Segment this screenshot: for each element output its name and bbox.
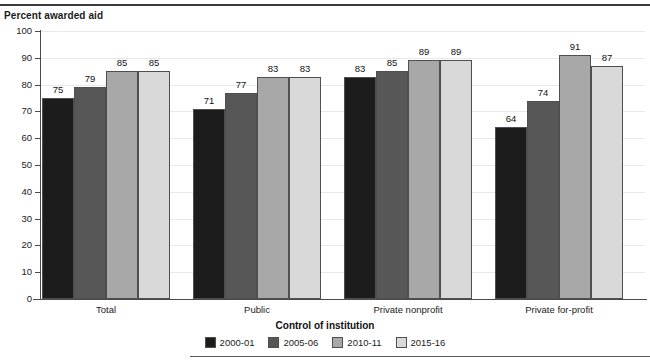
bar (106, 71, 138, 299)
y-tick-mark (35, 299, 40, 300)
y-tick-mark (35, 245, 40, 246)
y-tick-label: 20 (4, 240, 32, 249)
x-axis-line (33, 299, 647, 300)
bar-value-label: 64 (491, 114, 531, 124)
top-divider-rule (0, 4, 650, 6)
y-tick-mark (35, 219, 40, 220)
bar-value-label: 85 (134, 58, 174, 68)
bar-value-label: 75 (38, 85, 78, 95)
bar (527, 101, 559, 299)
bar (344, 77, 376, 299)
legend-item[interactable]: 2010-11 (332, 337, 381, 348)
y-tick-mark (35, 31, 40, 32)
bar (138, 71, 170, 299)
y-tick-mark (35, 111, 40, 112)
bar (193, 109, 225, 299)
bar-value-label: 85 (372, 58, 412, 68)
y-tick-label: 60 (4, 133, 32, 142)
y-tick-label: 50 (4, 160, 32, 169)
y-tick-mark (35, 165, 40, 166)
legend-swatch-icon (396, 337, 407, 348)
bar-value-label: 79 (70, 74, 110, 84)
chart-legend: 2000-012005-062010-112015-16 (0, 337, 650, 348)
legend-item-label: 2015-16 (411, 338, 446, 348)
bar-value-label: 74 (523, 88, 563, 98)
legend-item-label: 2010-11 (347, 338, 381, 348)
y-tick-mark (35, 272, 40, 273)
x-axis-category-label: Private for-profit (465, 304, 650, 315)
bottom-divider-rule (190, 356, 650, 357)
y-tick-label: 80 (4, 80, 32, 89)
y-tick-label: 40 (4, 187, 32, 196)
y-tick-label: 0 (4, 294, 32, 303)
bar-value-label: 77 (221, 80, 261, 90)
legend-swatch-icon (332, 337, 343, 348)
bar (257, 77, 289, 299)
bar (225, 93, 257, 299)
gridline (41, 31, 645, 32)
legend-swatch-icon (268, 337, 279, 348)
bar (559, 55, 591, 299)
y-tick-mark (35, 138, 40, 139)
bar (495, 127, 527, 299)
bar (440, 60, 472, 299)
bar-value-label: 87 (587, 53, 627, 63)
bar-value-label: 89 (436, 47, 476, 57)
bar (408, 60, 440, 299)
bar (591, 66, 623, 299)
y-tick-mark (35, 192, 40, 193)
bar-value-label: 71 (189, 96, 229, 106)
bar (289, 77, 321, 299)
legend-item[interactable]: 2000-01 (205, 337, 255, 348)
y-tick-label: 70 (4, 106, 32, 115)
legend-item[interactable]: 2005-06 (268, 337, 318, 348)
bar (74, 87, 106, 299)
y-axis-title: Percent awarded aid (4, 10, 103, 21)
bar (376, 71, 408, 299)
y-tick-label: 10 (4, 267, 32, 276)
y-tick-label: 100 (4, 26, 32, 35)
legend-swatch-icon (205, 337, 216, 348)
legend-item-label: 2005-06 (283, 338, 318, 348)
x-axis-title: Control of institution (0, 320, 650, 331)
y-tick-label: 90 (4, 53, 32, 62)
y-tick-label: 30 (4, 214, 32, 223)
y-tick-mark (35, 58, 40, 59)
bar-value-label: 91 (555, 42, 595, 52)
bar (42, 98, 74, 299)
legend-item-label: 2000-01 (220, 338, 255, 348)
bar-value-label: 83 (285, 64, 325, 74)
legend-item[interactable]: 2015-16 (396, 337, 446, 348)
